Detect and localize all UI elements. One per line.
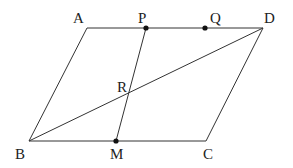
label-A: A <box>73 10 84 26</box>
label-M: M <box>110 146 123 162</box>
label-D: D <box>264 10 275 26</box>
label-P: P <box>138 10 146 26</box>
label-B: B <box>15 146 25 162</box>
label-Q: Q <box>210 10 221 26</box>
point-M <box>113 138 118 143</box>
parallelogram-diagram: A P Q D R B M C <box>0 0 293 168</box>
side-AB <box>29 28 87 141</box>
label-R: R <box>117 79 127 95</box>
label-C: C <box>203 146 213 162</box>
point-P <box>143 25 148 30</box>
point-Q <box>202 25 207 30</box>
side-DC <box>206 28 263 141</box>
diagonal-BD <box>29 28 263 141</box>
